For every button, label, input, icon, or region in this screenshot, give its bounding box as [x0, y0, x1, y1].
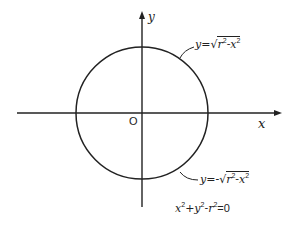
y-axis-arrow-icon — [139, 11, 145, 19]
upper-lhs: y= — [195, 38, 210, 51]
origin-label: O — [129, 116, 138, 127]
upper-leader-line — [180, 47, 194, 58]
plus-sign: + — [185, 202, 194, 215]
equals-zero: =0 — [217, 202, 230, 214]
exponent: 2 — [245, 172, 249, 179]
lower-semicircle-equation: y=-√r2-x2 — [200, 172, 249, 185]
circle-equation: x2+y2-r2=0 — [175, 201, 230, 214]
diagram-canvas — [0, 0, 291, 226]
lower-radicand: r2-x2 — [226, 171, 249, 186]
upper-semicircle-equation: y=√r2-x2 — [195, 37, 240, 50]
lower-lhs: y=- — [200, 173, 219, 186]
y-axis-label: y — [148, 11, 155, 23]
exponent: 2 — [237, 37, 241, 44]
x-axis-label: x — [258, 117, 265, 130]
upper-radicand: r2-x2 — [217, 36, 240, 51]
x-axis-arrow-icon — [274, 110, 282, 116]
lower-leader-line — [180, 172, 198, 180]
